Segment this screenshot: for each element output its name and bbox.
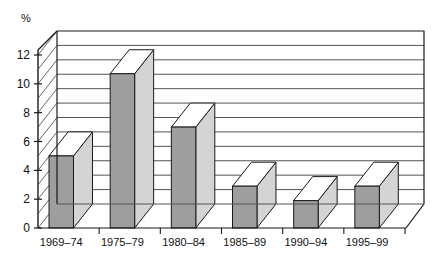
bar-front-face: [49, 156, 73, 228]
y-tick-label: 0: [23, 221, 30, 235]
bar-front-face: [233, 186, 257, 228]
y-tick-label: 6: [23, 135, 30, 149]
x-category-label: 1969–74: [40, 236, 83, 248]
y-tick-label: 12: [17, 48, 31, 62]
bar-front-face: [355, 186, 379, 228]
y-axis-unit-label: %: [21, 12, 31, 24]
x-category-label: 1995–99: [346, 236, 389, 248]
bar-front-face: [171, 127, 195, 228]
bar-side-face: [135, 50, 154, 228]
bar: [110, 50, 153, 228]
x-category-label: 1985–89: [223, 236, 266, 248]
y-tick-label: 4: [23, 163, 30, 177]
x-category-label: 1975–79: [101, 236, 144, 248]
bar-chart-figure: 024681012 1969–741975–791980–841985–8919…: [0, 0, 441, 258]
bar-front-face: [110, 74, 134, 228]
y-tick-label: 10: [17, 77, 31, 91]
bar-front-face: [294, 201, 318, 228]
x-axis-ticks: 1969–741975–791980–841985–891990–941995–…: [40, 228, 405, 248]
bar: [171, 103, 214, 228]
y-tick-label: 2: [23, 192, 30, 206]
y-tick-label: 8: [23, 106, 30, 120]
x-category-label: 1990–94: [284, 236, 327, 248]
x-category-label: 1980–84: [162, 236, 205, 248]
chart-svg: 024681012 1969–741975–791980–841985–8919…: [0, 0, 441, 258]
